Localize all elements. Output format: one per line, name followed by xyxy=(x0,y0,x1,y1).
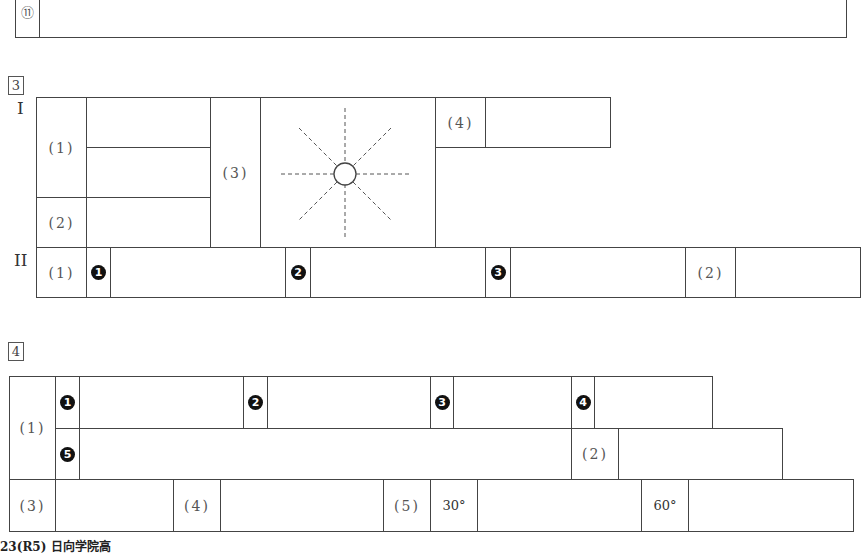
s3-i-q3-drawing-area[interactable] xyxy=(260,97,436,248)
s3-i-q1-answer-b[interactable] xyxy=(86,147,211,198)
s4-q3-answer[interactable] xyxy=(55,479,174,532)
s3-ii-sub3-answer[interactable] xyxy=(510,247,686,298)
circled-number-2-icon: 2 xyxy=(248,395,263,410)
s4-sub1-answer[interactable] xyxy=(79,376,244,429)
s3-i-q3-label: (3) xyxy=(210,97,261,248)
s3-i-q1-label: (1) xyxy=(36,97,87,198)
s3-ii-sub3-marker: 3 xyxy=(485,247,511,298)
section-4-number: 4 xyxy=(8,342,24,361)
s4-angle30-label: 30° xyxy=(430,479,478,532)
s4-sub5-answer[interactable] xyxy=(79,428,572,480)
circled-number-1-icon: 1 xyxy=(60,395,75,410)
s4-sub4-answer[interactable] xyxy=(594,376,713,429)
footer-text: 23(R5) 日向学院高 xyxy=(0,537,111,554)
circled-number-1-icon: 1 xyxy=(91,265,106,280)
s3-ii-q2-label: (2) xyxy=(685,247,736,298)
circled-number-4-icon: 4 xyxy=(576,395,591,410)
s3-i-q4-answer[interactable] xyxy=(485,97,611,148)
circled-number-3-icon: 3 xyxy=(435,395,450,410)
circled-number-3-icon: 3 xyxy=(491,265,506,280)
item-11-label: ⑪ xyxy=(15,0,40,22)
circled-number-2-icon: 2 xyxy=(291,265,306,280)
sun-diagram-icon xyxy=(261,98,437,249)
s4-q3-label: (3) xyxy=(9,479,56,532)
s3-i-q2-answer[interactable] xyxy=(86,197,211,248)
s4-angle60-answer[interactable] xyxy=(688,479,854,532)
s4-sub3-answer[interactable] xyxy=(453,376,572,429)
s3-ii-sub2-answer[interactable] xyxy=(310,247,486,298)
s3-ii-q1-label: (1) xyxy=(36,247,87,298)
s3-ii-sub2-marker: 2 xyxy=(285,247,311,298)
s4-q1-label: (1) xyxy=(9,376,56,480)
s3-i-q4-label: (4) xyxy=(435,97,486,148)
part-2-roman: II xyxy=(14,250,27,270)
s4-q2-answer[interactable] xyxy=(618,428,783,480)
part-1-roman: I xyxy=(17,98,24,118)
s4-q4-label: (4) xyxy=(173,479,221,532)
s4-sub2-marker: 2 xyxy=(243,376,268,429)
s4-q5-label: (5) xyxy=(383,479,431,532)
s4-sub3-marker: 3 xyxy=(430,376,454,429)
s4-sub1-marker: 1 xyxy=(55,376,80,429)
s4-q4-answer[interactable] xyxy=(220,479,384,532)
answer-field-11[interactable] xyxy=(39,0,847,38)
s4-sub2-answer[interactable] xyxy=(267,376,431,429)
circled-number-5-icon: 5 xyxy=(60,447,75,462)
s3-i-q1-answer-a[interactable] xyxy=(86,97,211,148)
s3-i-q2-label: (2) xyxy=(36,197,87,248)
s3-ii-sub1-answer[interactable] xyxy=(110,247,286,298)
s4-angle30-answer[interactable] xyxy=(477,479,642,532)
s4-q2-label: (2) xyxy=(571,428,619,480)
s4-angle60-label: 60° xyxy=(641,479,689,532)
section-3-number: 3 xyxy=(8,76,24,95)
s4-sub4-marker: 4 xyxy=(571,376,595,429)
s3-ii-sub1-marker: 1 xyxy=(86,247,111,298)
s3-ii-q2-answer[interactable] xyxy=(735,247,861,298)
s4-sub5-marker: 5 xyxy=(55,428,80,480)
